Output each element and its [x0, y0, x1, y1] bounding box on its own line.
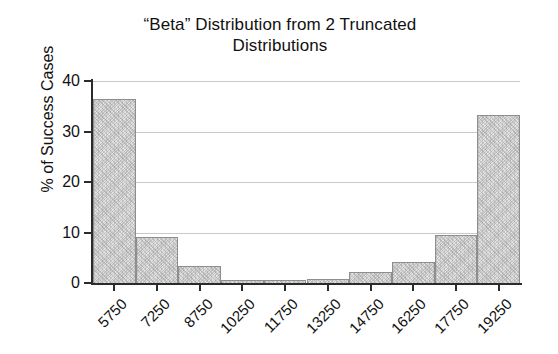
plot-area	[93, 81, 520, 283]
y-tick-mark	[84, 80, 93, 82]
bar	[93, 99, 136, 283]
y-tick-label: 30	[40, 124, 80, 140]
x-tick-mark	[113, 285, 115, 291]
x-tick-mark	[327, 285, 329, 291]
x-axis-tick-labels: 5750725087501025011750132501475016250177…	[93, 285, 520, 354]
y-tick-mark	[84, 232, 93, 234]
x-tick-mark	[370, 285, 372, 291]
bar	[136, 237, 179, 283]
x-tick-mark	[199, 285, 201, 291]
x-tick-mark	[498, 285, 500, 291]
x-tick-mark	[284, 285, 286, 291]
y-tick-label: 40	[40, 73, 80, 89]
y-tick-label: 20	[40, 174, 80, 190]
gridline	[93, 233, 520, 234]
bar	[392, 262, 435, 283]
y-tick-label: 0	[40, 275, 80, 291]
chart-title-line-1: “Beta” Distribution from 2 Truncated	[60, 14, 500, 35]
x-tick-mark	[156, 285, 158, 291]
x-tick-mark	[412, 285, 414, 291]
y-tick-mark	[84, 181, 93, 183]
y-tick-mark	[84, 131, 93, 133]
bar	[435, 235, 478, 283]
bar	[307, 279, 350, 283]
gridline	[93, 132, 520, 133]
bar	[349, 272, 392, 283]
chart-figure: “Beta” Distribution from 2 Truncated Dis…	[0, 0, 558, 354]
chart-title: “Beta” Distribution from 2 Truncated Dis…	[60, 14, 500, 56]
chart-title-line-2: Distributions	[60, 35, 500, 56]
bar	[477, 115, 520, 283]
y-axis-tick-labels: 010203040	[36, 0, 80, 354]
x-tick-mark	[455, 285, 457, 291]
bar	[264, 280, 307, 283]
x-tick-mark	[241, 285, 243, 291]
bar	[221, 280, 264, 283]
y-tick-label: 10	[40, 225, 80, 241]
gridline	[93, 81, 520, 82]
bar	[178, 266, 221, 283]
y-tick-mark	[84, 282, 93, 284]
gridline	[93, 182, 520, 183]
